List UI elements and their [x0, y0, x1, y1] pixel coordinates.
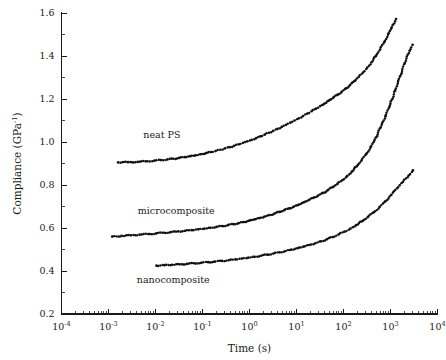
data-point — [398, 78, 400, 80]
data-point — [217, 260, 219, 262]
data-point — [387, 32, 390, 35]
data-point — [287, 123, 289, 125]
data-point — [268, 254, 270, 256]
data-point — [335, 234, 337, 236]
data-point — [310, 243, 312, 245]
data-point — [390, 194, 393, 197]
data-point — [224, 225, 226, 227]
data-point — [405, 57, 407, 59]
data-point — [167, 264, 169, 266]
data-point — [274, 251, 276, 253]
data-point — [185, 156, 187, 158]
data-point — [255, 137, 258, 140]
data-point — [272, 129, 275, 132]
data-point — [329, 236, 331, 238]
data-point — [398, 184, 400, 186]
series-neat-ps — [117, 18, 398, 164]
data-point — [394, 189, 396, 191]
data-point — [124, 161, 126, 163]
data-point — [191, 262, 193, 264]
data-point — [186, 229, 188, 231]
data-point — [380, 46, 382, 48]
data-point — [117, 161, 120, 164]
data-point — [320, 240, 323, 243]
data-point — [409, 173, 411, 175]
data-point — [149, 233, 151, 235]
data-point — [130, 234, 133, 237]
y-tick-label: 0.2 — [39, 308, 54, 319]
data-point — [221, 260, 224, 263]
data-point — [219, 225, 221, 227]
data-point — [261, 135, 263, 137]
data-point — [212, 151, 214, 153]
data-point — [411, 43, 414, 46]
data-point — [291, 121, 293, 123]
data-point — [377, 131, 379, 133]
data-point — [144, 233, 146, 235]
series-annotation-microcomposite: microcomposite — [138, 205, 215, 216]
chart-figure: 0.20.40.60.81.01.21.41.610-410-310-210-1… — [0, 0, 446, 360]
data-point — [302, 115, 305, 118]
x-tick-label: 103 — [382, 320, 398, 332]
series-nanocomposite — [155, 169, 414, 267]
data-point — [120, 235, 123, 238]
data-point — [297, 117, 300, 120]
data-point — [119, 162, 121, 164]
data-point — [316, 241, 318, 243]
data-point — [140, 160, 142, 162]
data-point — [166, 158, 169, 161]
data-point — [284, 208, 286, 210]
data-point — [308, 112, 310, 114]
y-tick-label: 1.6 — [39, 7, 54, 18]
data-point — [159, 231, 161, 233]
data-point — [203, 227, 206, 230]
data-point — [155, 159, 157, 161]
data-point — [244, 141, 246, 143]
data-point — [205, 261, 207, 263]
data-point — [234, 223, 236, 225]
data-point — [146, 160, 148, 162]
x-tick-label: 101 — [288, 320, 304, 332]
data-point — [176, 157, 178, 159]
data-point — [236, 258, 238, 260]
data-point — [283, 124, 285, 126]
x-tick-label: 102 — [335, 320, 351, 332]
data-point — [402, 65, 404, 67]
data-point — [293, 119, 296, 122]
data-point — [346, 175, 349, 178]
data-point — [370, 145, 373, 148]
data-point — [314, 196, 316, 198]
data-point — [159, 264, 161, 266]
data-point — [384, 117, 386, 119]
data-point — [216, 149, 218, 151]
data-point — [412, 169, 415, 172]
data-point — [165, 264, 167, 266]
data-point — [181, 156, 183, 158]
y-tick-label: 0.4 — [39, 265, 54, 276]
data-point — [408, 52, 410, 54]
data-point — [363, 70, 365, 72]
data-point — [377, 50, 379, 52]
data-point — [392, 95, 394, 97]
data-point — [199, 228, 201, 230]
data-point — [239, 143, 241, 145]
data-point — [268, 131, 271, 134]
data-point — [317, 107, 319, 109]
data-point — [191, 154, 193, 156]
data-point — [142, 160, 144, 162]
x-tick-label: 10-1 — [193, 320, 212, 332]
data-point — [315, 107, 318, 110]
data-point — [250, 139, 253, 142]
data-point — [128, 234, 130, 236]
y-tick-label: 0.6 — [39, 222, 54, 233]
data-point — [343, 178, 345, 180]
x-tick-label: 10-3 — [99, 320, 118, 332]
data-point — [314, 242, 317, 245]
data-point — [177, 230, 180, 233]
data-point — [206, 227, 208, 229]
data-point — [280, 251, 282, 253]
data-point — [393, 22, 395, 24]
x-axis-title: Time (s) — [228, 342, 271, 354]
data-point — [290, 248, 293, 251]
series-annotation-nanocomposite: nanocomposite — [137, 274, 210, 285]
